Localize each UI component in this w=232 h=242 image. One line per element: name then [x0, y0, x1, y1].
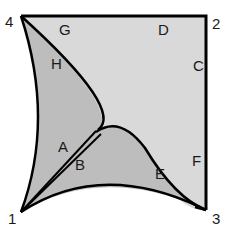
- label-c: C: [193, 57, 204, 74]
- corner-label-2: 2: [212, 15, 220, 32]
- corner-label-4: 4: [5, 13, 13, 30]
- label-a: A: [58, 138, 68, 155]
- label-b: B: [75, 156, 85, 173]
- geometric-diagram: 4 2 1 3 G D H C A B E F: [0, 0, 232, 242]
- label-h: H: [51, 55, 62, 72]
- label-g: G: [59, 21, 71, 38]
- label-e: E: [155, 165, 165, 182]
- label-f: F: [192, 152, 201, 169]
- corner-label-1: 1: [8, 210, 16, 227]
- corner-label-3: 3: [212, 210, 220, 227]
- label-d: D: [158, 21, 169, 38]
